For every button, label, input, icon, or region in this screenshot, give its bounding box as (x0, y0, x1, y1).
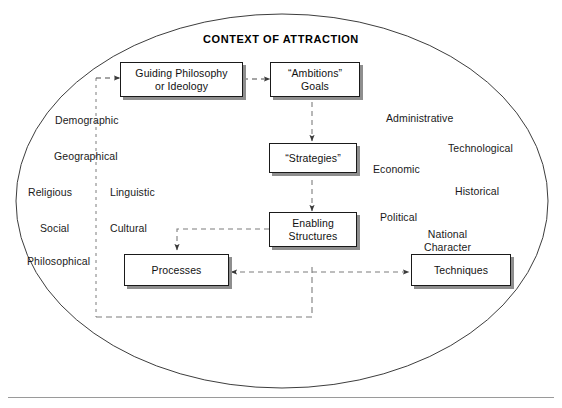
context-word-administrative: Administrative (386, 112, 453, 125)
node-enabling-structures-line1: Enabling (289, 217, 338, 230)
node-strategies-line1: “Strategies” (285, 152, 340, 165)
node-strategies[interactable]: “Strategies” (269, 143, 357, 173)
node-guiding-philosophy-line2: or Ideology (135, 80, 227, 93)
context-word-political: Political (380, 211, 417, 224)
context-word-demographic: Demographic (55, 114, 119, 127)
context-word-geographical: Geographical (54, 150, 118, 163)
node-enabling-structures[interactable]: Enabling Structures (269, 212, 357, 247)
node-ambitions-goals-line1: “Ambitions” (288, 67, 342, 80)
page-title: CONTEXT OF ATTRACTION (0, 33, 562, 45)
context-word-national-character: National Character (424, 228, 471, 253)
node-ambitions-goals[interactable]: “Ambitions” Goals (270, 62, 360, 97)
node-guiding-philosophy[interactable]: Guiding Philosophy or Ideology (120, 62, 243, 97)
node-processes-line1: Processes (152, 264, 202, 277)
node-enabling-structures-line2: Structures (289, 230, 338, 243)
node-techniques-line1: Techniques (434, 264, 488, 277)
diagram-canvas: CONTEXT OF ATTRACTION Guiding Philosophy… (0, 0, 562, 408)
context-word-historical: Historical (455, 185, 499, 198)
context-word-social: Social (40, 222, 69, 235)
enabling-structures-to-processes (177, 229, 269, 250)
node-ambitions-goals-line2: Goals (288, 80, 342, 93)
node-guiding-philosophy-line1: Guiding Philosophy (135, 67, 227, 80)
context-word-technological: Technological (448, 142, 513, 155)
context-word-linguistic: Linguistic (110, 186, 155, 199)
node-processes[interactable]: Processes (124, 254, 229, 286)
node-techniques[interactable]: Techniques (411, 254, 511, 286)
context-word-economic: Economic (373, 163, 420, 176)
context-word-cultural: Cultural (110, 222, 147, 235)
context-word-religious: Religious (28, 186, 72, 199)
context-word-philosophical: Philosophical (27, 255, 90, 268)
